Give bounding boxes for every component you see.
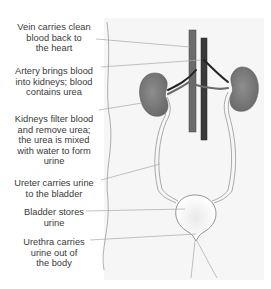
label-ureter: Ureter carries urine to the bladder [0,178,108,199]
artery [201,38,207,140]
leader-artery [101,60,201,67]
urethra-line-right [197,241,217,278]
label-urethra: Urethra carries urine out of the body [0,237,108,269]
urethra-line-left [191,241,195,278]
right-ureter [212,92,236,203]
label-bladder: Bladder stores urine [0,207,108,228]
leader-vein [96,39,190,47]
label-kidneys: Kidneys filter blood and remove urea; th… [0,114,108,167]
leader-kidneys [99,103,142,110]
leader-ureter [101,164,160,180]
left-kidney [140,73,168,116]
renal-vessels [168,60,228,94]
label-artery: Artery brings blood into kidneys; blood … [0,66,108,98]
label-vein: Vein carries clean blood back to the hea… [0,22,108,54]
right-kidney [230,67,258,111]
